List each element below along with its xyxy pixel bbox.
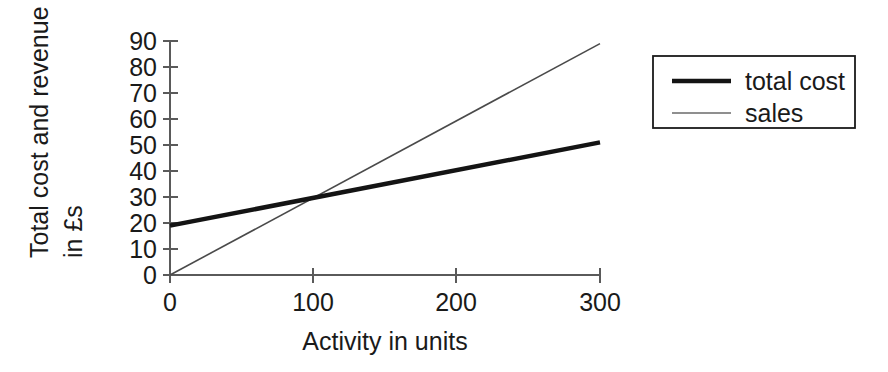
y-tick-label-10: 10 bbox=[129, 235, 157, 263]
breakeven-chart: Total cost and revenue in £s 0 10 20 30 … bbox=[0, 0, 888, 372]
y-axis-title-line2: in £s bbox=[59, 205, 87, 258]
y-axis-title: Total cost and revenue in £s bbox=[25, 6, 87, 258]
x-tick-label-100: 100 bbox=[292, 288, 334, 316]
y-axis-title-line1: Total cost and revenue bbox=[25, 6, 53, 258]
series-line-sales bbox=[170, 44, 600, 275]
x-axis-title: Activity in units bbox=[302, 327, 467, 355]
chart-legend: total cost sales bbox=[653, 56, 855, 128]
y-tick-label-20: 20 bbox=[129, 209, 157, 237]
y-tick-label-70: 70 bbox=[129, 79, 157, 107]
y-tick-label-40: 40 bbox=[129, 157, 157, 185]
x-tick-labels: 0 100 200 300 bbox=[163, 288, 621, 316]
y-tick-label-90: 90 bbox=[129, 27, 157, 55]
legend-label-total-cost: total cost bbox=[745, 67, 845, 95]
legend-label-sales: sales bbox=[745, 99, 803, 127]
y-tick-label-0: 0 bbox=[143, 261, 157, 289]
y-tick-label-30: 30 bbox=[129, 183, 157, 211]
y-tick-label-80: 80 bbox=[129, 53, 157, 81]
x-tick-label-200: 200 bbox=[435, 288, 477, 316]
y-tick-label-50: 50 bbox=[129, 131, 157, 159]
y-tick-label-60: 60 bbox=[129, 105, 157, 133]
series-line-total-cost bbox=[170, 142, 600, 225]
x-tick-label-300: 300 bbox=[579, 288, 621, 316]
x-tick-label-0: 0 bbox=[163, 288, 177, 316]
y-tick-labels: 0 10 20 30 40 50 60 70 80 90 bbox=[129, 27, 157, 289]
chart-page: Total cost and revenue in £s 0 10 20 30 … bbox=[0, 0, 888, 372]
plot-series bbox=[170, 44, 600, 275]
